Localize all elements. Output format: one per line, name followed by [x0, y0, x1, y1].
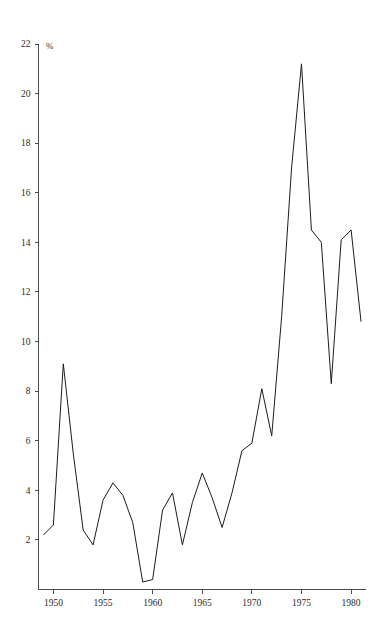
- y-tick-label: 8: [26, 386, 31, 396]
- x-tick-label: 1975: [292, 598, 311, 608]
- x-axis-ticks: 1950195519601965197019751980: [44, 590, 361, 608]
- chart-plot-area: 246810121416182022 195019551960196519701…: [21, 39, 366, 607]
- x-tick-label: 1980: [342, 598, 361, 608]
- x-tick-label: 1950: [44, 598, 63, 608]
- y-tick-label: 4: [26, 486, 31, 496]
- y-tick-label: 2: [26, 535, 31, 545]
- y-tick-label: 18: [21, 138, 31, 148]
- data-series-line: [43, 64, 361, 582]
- y-tick-label: 12: [21, 287, 31, 297]
- chart-container: 246810121416182022 195019551960196519701…: [0, 0, 373, 626]
- y-tick-label: 16: [21, 188, 31, 198]
- x-tick-label: 1960: [143, 598, 162, 608]
- y-tick-label: 20: [21, 89, 31, 99]
- y-axis-unit-label: %: [46, 41, 54, 51]
- y-tick-label: 10: [21, 337, 31, 347]
- y-tick-label: 14: [21, 238, 31, 248]
- y-axis-ticks: 246810121416182022: [21, 39, 39, 545]
- line-chart: 246810121416182022 195019551960196519701…: [0, 0, 373, 626]
- y-tick-label: 22: [21, 39, 31, 49]
- x-tick-label: 1965: [193, 598, 212, 608]
- x-tick-label: 1955: [94, 598, 113, 608]
- x-tick-label: 1970: [242, 598, 261, 608]
- y-tick-label: 6: [26, 436, 31, 446]
